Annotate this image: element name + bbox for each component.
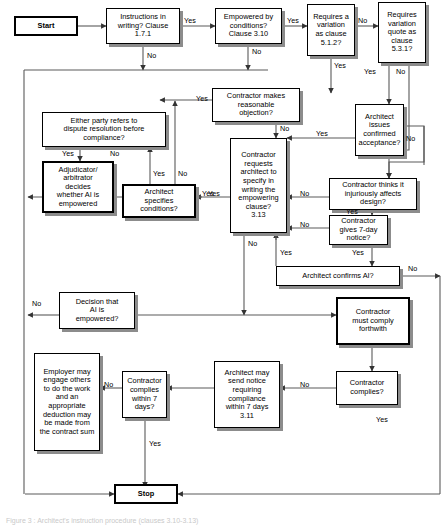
node-instructions-in-writing[interactable]: Instructions in writing? Clause 1.7.1 [106,8,180,44]
figure-caption: Figure 3 : Architect's instruction proce… [6,517,198,524]
node-stop-label: Stop [138,490,154,499]
node-start[interactable]: Start [14,16,78,36]
node-confirmed-label: Architect issues confirmed acceptance? [359,113,401,147]
edge-label-confirmed-no: No [406,135,415,143]
node-objection-label: Contractor makes reasonable objection? [227,92,285,118]
node-dispute-resolution[interactable]: Either party refers to dispute resolutio… [42,112,166,147]
edge-label-complies7-no: No [104,381,113,389]
edge-label-empowered-no: No [252,48,261,56]
node-contractor-objection[interactable]: Contractor makes reasonable objection? [212,88,300,122]
edge-label-instructions-no: No [147,52,156,60]
node-adjudicator-decides[interactable]: Adjudicator/ arbitrator decides whether … [42,161,114,213]
edge-label-requests-no: No [248,240,257,248]
node-stop[interactable]: Stop [114,484,178,504]
edge-label-quote-yes: Yes [364,68,376,76]
node-instructions-label: Instructions in writing? Clause 1.7.1 [118,13,169,39]
edge-label-dispute-no: No [110,150,119,158]
node-employer-engage-others[interactable]: Employer may engage others to do the wor… [34,353,100,451]
edge-label-confirmsai-yes: Yes [280,249,292,257]
edge-label-injurious-no: No [300,190,309,198]
node-decision-ai-empowered[interactable]: Decision that AI is empowered? [59,292,135,329]
edge-label-specifies-yes: Yes [153,170,165,178]
node-variation-label: Requires a variation as clause 5.1.2? [313,13,349,47]
node-contractor-must-comply[interactable]: Contractor must comply forthwith [336,297,410,345]
node-quote-label: Requires variation quote as clause 5.3.1… [387,11,417,54]
node-start-label: Start [38,22,55,31]
edge-label-decision-no: No [32,300,41,308]
edge-label-objection-yes: Yes [196,95,208,103]
edge-label-7day-yes: Yes [352,249,364,257]
node-confirmsai-label: Architect confirms AI? [302,272,373,281]
edge-label-requests-yes: Yes [208,190,220,198]
flowchart-canvas: Start Instructions in writing? Clause 1.… [0,0,444,529]
node-contractor-requests-architect[interactable]: Contractor requests architect to specify… [230,138,287,233]
node-architect-confirms-ai[interactable]: Architect confirms AI? [276,266,400,286]
node-requires-variation[interactable]: Requires a variation as clause 5.1.2? [307,4,355,56]
node-architect-may-send-notice[interactable]: Architect may send notice requiring comp… [214,361,280,428]
node-decision-label: Decision that AI is empowered? [76,298,119,324]
node-architect-specifies-conditions[interactable]: Architect specifies conditions? [122,184,196,218]
node-7day-label: Contractor gives 7-day notice? [340,217,378,243]
edge-label-7day-no: No [300,221,309,229]
node-injuriously-affects-design[interactable]: Contractor thinks it injuriously affects… [329,178,417,210]
node-notice-label: Architect may send notice requiring comp… [225,369,270,421]
edge-label-dispute-yes: Yes [62,150,74,158]
edge-label-instructions-yes: Yes [184,17,196,25]
node-architect-confirmed-acceptance[interactable]: Architect issues confirmed acceptance? [355,104,404,156]
edge-label-variation-no: No [358,17,367,25]
edge-label-complies7-yes: Yes [149,440,161,448]
edge-label-empowered-yes: Yes [287,17,299,25]
node-empowered-by-conditions[interactable]: Empowered by conditions? Clause 3.10 [215,8,282,44]
node-requires-variation-quote[interactable]: Requires variation quote as clause 5.3.1… [378,2,426,63]
node-adjudicator-label: Adjudicator/ arbitrator decides whether … [57,166,99,209]
node-mustcomply-label: Contractor must comply forthwith [352,308,393,334]
node-contractor-complies-7-days[interactable]: Contractor complies within 7 days? [122,371,167,418]
edge-label-objection-no: No [280,125,289,133]
node-contractor-complies[interactable]: Contractor complies? [336,371,398,405]
edge-label-confirmed-yes: Yes [316,130,328,138]
node-injurious-label: Contractor thinks it injuriously affects… [342,181,404,207]
edge-label-complies-no: No [300,381,309,389]
edge-label-injurious-yes: Yes [346,208,358,216]
node-specifies-label: Architect specifies conditions? [140,188,177,214]
edge-label-specifies-no: No [178,170,187,178]
node-requests-label: Contractor requests architect to specify… [238,151,278,220]
edge-label-quote-no: No [396,68,405,76]
edge-label-variation-yes: Yes [334,62,346,70]
node-empowered-label: Empowered by conditions? Clause 3.10 [224,13,273,39]
node-complies7-label: Contractor complies within 7 days? [127,377,162,411]
node-dispute-label: Either party refers to dispute resolutio… [64,117,145,143]
edge-label-confirmsai-no: No [408,265,417,273]
edge-label-complies-yes: Yes [376,416,388,424]
node-contractor-7-day-notice[interactable]: Contractor gives 7-day notice? [329,215,388,245]
node-employer-label: Employer may engage others to do the wor… [40,368,95,437]
node-complies-label: Contractor complies? [350,379,385,396]
